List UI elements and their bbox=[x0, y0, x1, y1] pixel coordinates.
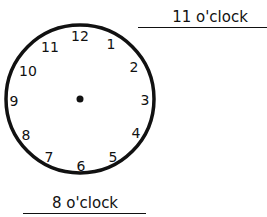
top-answer-label: 11 o'clock bbox=[160, 8, 260, 26]
clock-number-5: 5 bbox=[109, 149, 118, 165]
clock-center-dot bbox=[77, 96, 84, 103]
bottom-answer-label: 8 o'clock bbox=[30, 194, 140, 212]
bottom-answer-line bbox=[23, 213, 146, 214]
clock-number-11: 11 bbox=[41, 39, 59, 55]
clock-number-8: 8 bbox=[22, 127, 31, 143]
clock-number-6: 6 bbox=[77, 158, 86, 174]
clock-number-10: 10 bbox=[19, 63, 37, 79]
clock-number-4: 4 bbox=[132, 125, 141, 141]
clock-number-3: 3 bbox=[141, 92, 150, 108]
clock-number-1: 1 bbox=[107, 36, 116, 52]
clock-number-7: 7 bbox=[45, 149, 54, 165]
clock-number-2: 2 bbox=[130, 59, 139, 75]
clock-number-12: 12 bbox=[71, 28, 89, 44]
top-answer-line bbox=[138, 27, 267, 28]
clock-number-9: 9 bbox=[10, 93, 19, 109]
